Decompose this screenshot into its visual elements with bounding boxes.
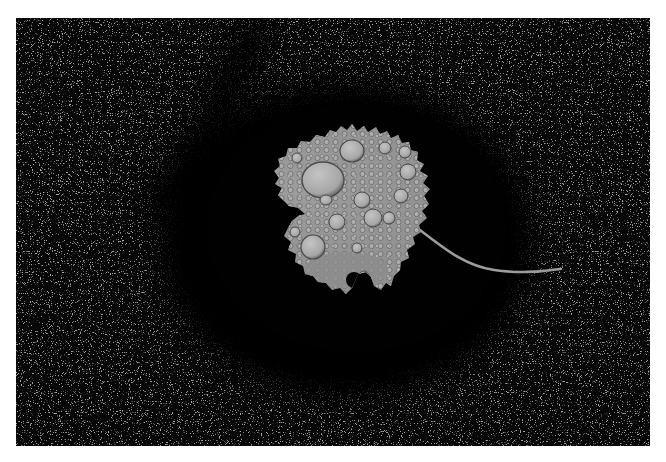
- leaf-photo-svg: [16, 18, 650, 446]
- photograph: Water droplets on a fallen leaf: [16, 18, 650, 446]
